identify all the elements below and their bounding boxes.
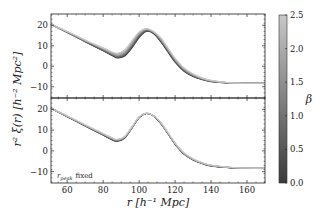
- colorbar-tick-label: 2.5: [290, 10, 304, 20]
- curve-beta-0.38: [51, 108, 265, 168]
- curve-beta-0.50: [51, 24, 265, 83]
- curve-beta-0.75: [51, 108, 265, 168]
- y-tick-label: −10: [30, 167, 48, 177]
- colorbar-label-beta: β: [305, 93, 312, 106]
- curve-beta-0.25: [51, 108, 265, 168]
- curve-beta-0.63: [51, 108, 265, 168]
- x-tick-label: 160: [239, 185, 255, 195]
- curves-top: [51, 24, 265, 83]
- y-tick-label: 0: [43, 146, 48, 156]
- curve-beta-0.00: [51, 24, 265, 83]
- curve-beta-0.13: [51, 108, 265, 168]
- curve-beta-0.63: [51, 24, 265, 83]
- x-tick-label: 120: [167, 185, 183, 195]
- colorbar-tick-label: 0.0: [290, 178, 304, 188]
- curves-bottom: [51, 108, 265, 168]
- colorbar: 0.00.51.01.52.02.5 β: [279, 10, 312, 188]
- curve-beta-0.88: [51, 24, 265, 83]
- x-tick-label: 100: [131, 185, 147, 195]
- curve-beta-0.25: [51, 24, 265, 83]
- x-tick-label: 140: [203, 185, 219, 195]
- colorbar-ticks: 0.00.51.01.52.02.5: [285, 10, 304, 188]
- colorbar-tick-label: 1.5: [290, 77, 304, 87]
- x-axis-label: r [h⁻¹ Mpc]: [127, 196, 190, 209]
- curve-beta-1.00: [51, 24, 265, 83]
- x-tick-label: 60: [62, 185, 73, 195]
- curve-beta-0.50: [51, 108, 265, 168]
- panel-top: −1001020: [30, 14, 265, 98]
- ticks-top: −1001020: [30, 14, 265, 98]
- x-tick-label: 80: [98, 185, 109, 195]
- colorbar-tick-label: 2.0: [290, 44, 304, 54]
- colorbar-tick-label: 0.5: [290, 144, 304, 154]
- curve-beta-0.13: [51, 24, 265, 83]
- y-tick-label: −10: [30, 82, 48, 92]
- ticks-bottom: −1001020: [30, 98, 265, 183]
- annotation-r-peak-fixed: rpeakfixed: [57, 172, 93, 182]
- curve-beta-1.00: [51, 108, 265, 168]
- curve-beta-0.00: [51, 108, 265, 168]
- y-axis-label: r² ξ(r) [h⁻² Mpc²]: [11, 51, 24, 147]
- y-tick-label: 10: [37, 125, 48, 135]
- curve-beta-0.38: [51, 24, 265, 83]
- y-tick-label: 10: [37, 41, 48, 51]
- y-tick-label: 20: [37, 104, 48, 114]
- figure: −1001020 −1001020 rpeakfixed 60801001201…: [0, 0, 326, 221]
- curve-beta-0.75: [51, 24, 265, 83]
- curve-beta-0.88: [51, 108, 265, 168]
- y-tick-label: 0: [43, 61, 48, 71]
- colorbar-tick-label: 1.0: [290, 111, 304, 121]
- y-tick-label: 20: [37, 20, 48, 30]
- panel-bottom: −1001020 rpeakfixed: [30, 98, 265, 183]
- x-tick-labels: 6080100120140160: [62, 185, 255, 195]
